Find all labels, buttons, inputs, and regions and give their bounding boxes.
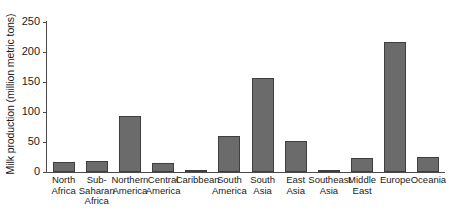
y-tick: 0 xyxy=(0,172,47,173)
bar[interactable] xyxy=(252,78,274,172)
bar[interactable] xyxy=(417,157,439,172)
bar[interactable] xyxy=(86,161,108,172)
y-tick-mark xyxy=(43,172,47,173)
bar[interactable] xyxy=(285,141,307,172)
x-axis-label: Oceania xyxy=(408,175,449,186)
bar[interactable] xyxy=(152,163,174,172)
bar[interactable] xyxy=(318,170,340,172)
bar[interactable] xyxy=(384,42,406,172)
y-tick-label: 100 xyxy=(14,106,40,117)
bar[interactable] xyxy=(218,136,240,172)
bar-slot xyxy=(412,22,445,172)
y-tick: 100 xyxy=(0,112,47,113)
x-axis-line xyxy=(46,172,445,173)
bar[interactable] xyxy=(185,170,207,172)
bar-slot xyxy=(147,22,180,172)
bar-slot xyxy=(47,22,80,172)
bars-group xyxy=(47,22,445,172)
bar[interactable] xyxy=(53,162,75,172)
bar-slot xyxy=(246,22,279,172)
bar-slot xyxy=(180,22,213,172)
y-tick-label: 0 xyxy=(14,166,40,177)
y-tick: 250 xyxy=(0,22,47,23)
bar-slot xyxy=(279,22,312,172)
y-tick-label: 250 xyxy=(14,16,40,27)
bar[interactable] xyxy=(351,158,373,172)
bar-slot xyxy=(213,22,246,172)
bar[interactable] xyxy=(119,116,141,172)
y-tick: 200 xyxy=(0,52,47,53)
y-tick: 150 xyxy=(0,82,47,83)
y-tick: 50 xyxy=(0,142,47,143)
bar-slot xyxy=(80,22,113,172)
y-tick-label: 200 xyxy=(14,46,40,57)
x-axis-labels: NorthAfricaSub-SaharanAfricaNorthernAmer… xyxy=(47,175,445,209)
bar-slot xyxy=(113,22,146,172)
bar-slot xyxy=(346,22,379,172)
bar-slot xyxy=(379,22,412,172)
y-tick-label: 150 xyxy=(14,76,40,87)
bar-slot xyxy=(312,22,345,172)
y-tick-label: 50 xyxy=(14,136,40,147)
y-axis-title: Milk production (million metric tons) xyxy=(2,8,18,180)
